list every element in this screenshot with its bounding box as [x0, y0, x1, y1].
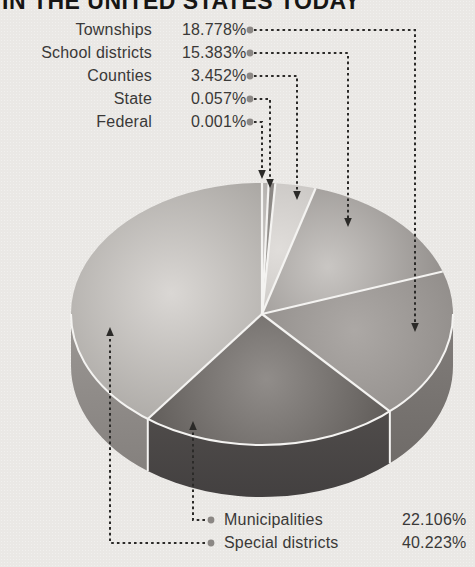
label-row-federal: Federal 0.001% [0, 110, 244, 133]
pie-figure-3d: IN THE UNITED STATES TODAY [0, 0, 475, 567]
label-block-top: Townships 18.778% School districts 15.38… [0, 18, 244, 133]
bullet-icon [247, 73, 254, 80]
label-row-townships: Townships 18.778% [0, 18, 244, 41]
bullet-icon [247, 119, 254, 126]
bullet-icon [247, 27, 254, 34]
label-row-special-districts: Special districts 40.223% [224, 531, 464, 554]
label-row-municipalities: Municipalities 22.106% [224, 508, 464, 531]
slice-label: Counties [0, 64, 152, 87]
slice-value: 3.452% [156, 64, 246, 87]
slice-value: 0.001% [156, 110, 246, 133]
bullet-icon [247, 50, 254, 57]
slice-value: 22.106% [377, 508, 466, 531]
slice-value: 18.778% [156, 18, 246, 41]
bullet-icon [247, 96, 254, 103]
bullet-icon [208, 540, 215, 547]
label-row-school-districts: School districts 15.383% [0, 41, 244, 64]
slice-label: Townships [0, 18, 152, 41]
label-block-bottom: Municipalities 22.106% Special districts… [224, 508, 464, 554]
label-row-counties: Counties 3.452% [0, 64, 244, 87]
slice-value: 15.383% [156, 41, 246, 64]
arrow-down-icon [258, 170, 266, 179]
slice-label: State [0, 87, 152, 110]
slice-value: 0.057% [156, 87, 246, 110]
bullet-icon [208, 517, 215, 524]
label-row-state: State 0.057% [0, 87, 244, 110]
slice-label: School districts [0, 41, 152, 64]
slice-label: Federal [0, 110, 152, 133]
leader-federal [254, 122, 262, 171]
slice-label: Municipalities [224, 508, 373, 531]
slice-value: 40.223% [377, 531, 466, 554]
slice-label: Special districts [224, 531, 373, 554]
